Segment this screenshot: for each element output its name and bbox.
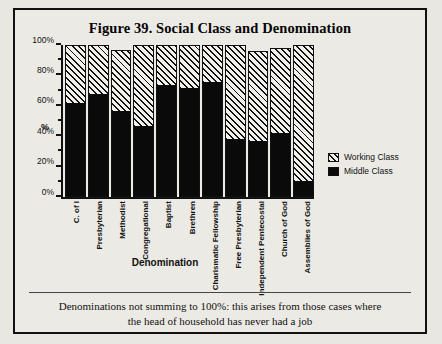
chart-title: Figure 39. Social Class and Denomination [15,20,425,37]
stacked-bar[interactable] [65,45,86,197]
bar-column [248,45,269,197]
bar-segment-working-class [112,51,131,111]
plot-area: 0%20%40%60%80%100% [61,45,314,197]
bar-segment-working-class [294,46,313,181]
stacked-bar[interactable] [111,50,132,197]
bar-column [133,45,154,197]
stacked-bar[interactable] [179,45,200,197]
bar-segment-middle-class [203,82,222,196]
bar-segment-working-class [180,46,199,88]
y-axis-tick [56,73,61,75]
bar-column [65,45,86,197]
y-axis-tick-label: 100% [32,35,54,45]
y-axis-minor-tick [58,149,61,151]
legend-label: Middle Class [344,166,393,176]
bar-segment-working-class [89,46,108,94]
figure-caption: Denominations not summing to 100%: this … [33,299,407,329]
y-axis-tick [56,104,61,106]
bar-segment-middle-class [89,94,108,196]
bar-segment-middle-class [294,181,313,196]
x-axis-tick-label: Brethren [187,201,196,234]
bar-segment-middle-class [134,126,153,197]
x-axis-tick-label: Charismatic Fellowship [210,201,219,290]
y-axis-minor-tick [58,119,61,121]
x-axis-tick-label: Independent Pentecostal [257,201,266,296]
legend-swatch-solid [328,167,339,176]
bar-column [88,45,109,197]
x-axis-tick-label: Congregational [141,201,150,260]
x-axis-tick-label: Church of God [280,201,289,257]
y-axis-tick [56,195,61,197]
x-axis-tick-label: Presbyterian [94,201,103,249]
x-axis-tick-label: C. of I [71,201,80,223]
x-axis-tick-label: Baptist [164,201,173,228]
y-axis-tick-label: 0% [42,187,54,197]
stacked-bar[interactable] [88,45,109,197]
y-axis-tick-label: 60% [37,95,54,105]
y-axis-tick [56,134,61,136]
bar-segment-middle-class [66,103,85,196]
bar-column [293,45,314,197]
bar-segment-working-class [271,49,290,133]
legend-label: Working Class [344,152,399,162]
caption-line-2: the head of household has never had a jo… [33,314,407,329]
bar-segment-middle-class [249,141,268,196]
bar-segment-middle-class [271,133,290,196]
stacked-bar[interactable] [248,51,269,197]
bar-column [156,45,177,197]
y-axis-tick-label: 20% [37,156,54,166]
x-axis-line [61,197,314,199]
y-axis-minor-tick [58,180,61,182]
legend-swatch-hatch [328,153,339,162]
caption-divider [29,292,411,293]
stacked-bar[interactable] [156,45,177,197]
y-axis-minor-tick [58,89,61,91]
stacked-bar[interactable] [225,45,246,197]
y-axis-tick-label: 40% [37,126,54,136]
bar-column [111,45,132,197]
caption-line-1: Denominations not summing to 100%: this … [33,299,407,314]
bar-segment-working-class [249,52,268,140]
bar-segment-middle-class [226,139,245,196]
bar-segment-middle-class [180,88,199,196]
bar-segment-working-class [226,46,245,139]
bar-segment-middle-class [112,111,131,196]
y-axis-minor-tick [58,58,61,60]
stacked-bar[interactable] [133,45,154,197]
bar-group [63,45,314,197]
bar-column [225,45,246,197]
bar-segment-working-class [157,46,176,85]
bar-segment-middle-class [157,85,176,196]
bar-column [179,45,200,197]
bar-segment-working-class [66,46,85,103]
x-axis-tick-label: Methodist [117,201,126,239]
stacked-bar[interactable] [270,48,291,197]
stacked-bar[interactable] [202,45,223,197]
legend-item[interactable]: Working Class [328,152,399,162]
y-axis-tick-label: 80% [37,65,54,75]
stacked-bar[interactable] [293,45,314,197]
bar-column [270,45,291,197]
chart-legend: Working ClassMiddle Class [328,152,399,176]
bar-segment-working-class [203,46,222,82]
legend-item[interactable]: Middle Class [328,166,399,176]
x-axis-title: Denomination [15,257,315,268]
bar-column [202,45,223,197]
y-axis-tick [56,43,61,45]
figure-frame: Figure 39. Social Class and Denomination… [13,8,427,334]
bar-segment-working-class [134,46,153,126]
y-axis-tick [56,165,61,167]
